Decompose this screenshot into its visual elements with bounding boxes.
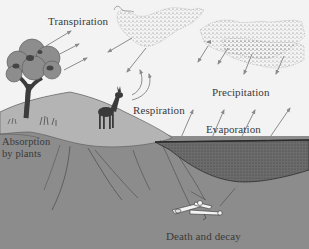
label-absorption-line1: Absorption <box>2 136 50 148</box>
water-cycle-diagram: Transpiration Respiration Precipitation … <box>0 0 309 249</box>
label-precipitation: Precipitation <box>212 86 270 98</box>
label-respiration: Respiration <box>133 104 185 116</box>
label-transpiration: Transpiration <box>48 15 108 27</box>
diagram-canvas <box>0 0 309 249</box>
label-death-decay: Death and decay <box>166 230 241 242</box>
label-absorption-line2: by plants <box>2 148 41 160</box>
respiration-arrows <box>132 70 150 100</box>
label-evaporation: Evaporation <box>206 123 261 135</box>
clouds <box>114 6 305 68</box>
